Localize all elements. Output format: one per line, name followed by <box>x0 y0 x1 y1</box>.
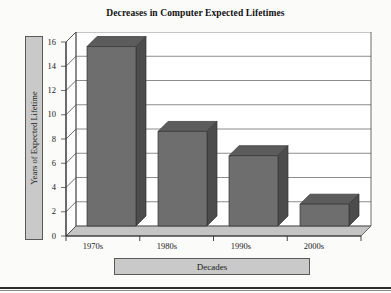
bar-2000s-front <box>300 204 349 226</box>
y-tick-label-12: 12 <box>34 86 56 94</box>
bar-1980s-front <box>158 131 207 226</box>
bar-1970s <box>87 37 146 226</box>
plot-floor <box>66 226 371 236</box>
page-divider-rule <box>0 287 391 289</box>
bar-1970s-front <box>87 47 136 226</box>
x-tick-label-2000s: 2000s <box>284 241 344 251</box>
x-axis-caption-box: Decades <box>114 258 310 275</box>
plot-area <box>56 32 372 246</box>
bar-1990s-front <box>229 156 278 226</box>
bar-1970s-side <box>136 37 146 226</box>
y-tick-label-6: 6 <box>34 159 56 167</box>
x-tick-label-1970s: 1970s <box>63 241 123 251</box>
bar-2000s <box>300 194 359 226</box>
x-tick-label-1990s: 1990s <box>211 241 271 251</box>
chart-title: Decreases in Computer Expected Lifetimes <box>0 8 391 18</box>
x-axis-caption-label: Decades <box>197 262 227 272</box>
y-tick-label-16: 16 <box>34 38 56 46</box>
page-divider-rule-secondary <box>0 290 391 291</box>
y-tick-label-8: 8 <box>34 135 56 143</box>
bar-1980s <box>158 121 217 226</box>
y-tick-label-0: 0 <box>34 232 56 240</box>
y-tick-label-10: 10 <box>34 110 56 118</box>
y-tick-label-2: 2 <box>34 207 56 215</box>
y-tick-label-14: 14 <box>34 62 56 70</box>
bar-1990s-side <box>278 146 288 226</box>
x-tick-label-1980s: 1980s <box>137 241 197 251</box>
bar-1990s <box>229 146 288 226</box>
y-tick-label-4: 4 <box>34 183 56 191</box>
bar-1980s-side <box>207 121 217 226</box>
